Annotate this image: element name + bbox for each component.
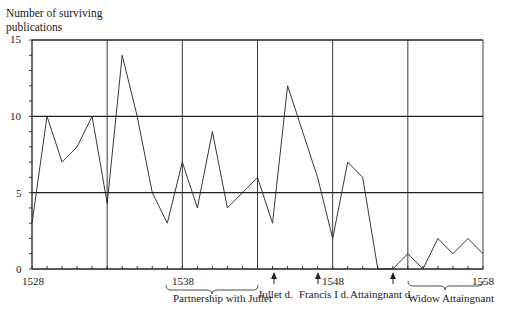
arrow-icon: [390, 272, 396, 284]
widow-label: Widow Attaingnant: [408, 292, 494, 304]
grid-lines: [32, 40, 483, 269]
jullet-death-label: Jullet d.: [258, 288, 293, 300]
y-tick-label-0: 0: [16, 263, 22, 275]
y-tick-label-15: 15: [10, 33, 22, 45]
x-tick-label-1548: 1548: [322, 275, 345, 287]
x-tick-label-1528: 1528: [22, 275, 45, 287]
y-tick-label-5: 5: [16, 187, 22, 199]
francis-death-label: Francis I d.: [299, 288, 349, 300]
attaingnant-death-label: Attaingnant d.: [350, 288, 413, 300]
axes: [29, 40, 483, 269]
x-tick-label-1538: 1538: [172, 275, 195, 287]
line-chart: 15 10 5 0 1528 1538 1548 1558 Partnershi…: [0, 0, 506, 317]
y-tick-label-10: 10: [10, 110, 22, 122]
arrow-icon: [315, 272, 321, 284]
arrow-icon: [271, 272, 277, 284]
